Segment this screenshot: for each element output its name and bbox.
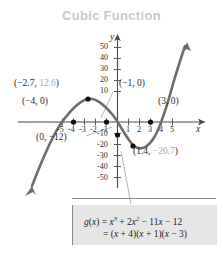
y-tick-40: 40: [100, 54, 108, 62]
x-tick-2: 2: [137, 126, 141, 134]
x-axis: [18, 119, 205, 126]
y-tick-neg50: -50: [97, 174, 108, 182]
exponent-3: 3: [114, 215, 117, 222]
y-tick-20: 20: [100, 76, 108, 84]
point-root-mid: [104, 119, 109, 124]
label-root-mid: (−1, 0): [119, 79, 145, 89]
cubic-function-figure: Cubic Function: [0, 0, 223, 253]
equation-box: g(x) = x3 + 2x2 − 11x − 12 = (x + 4)(x +…: [72, 205, 217, 245]
x-tick-4: 4: [159, 126, 163, 134]
point-root-left: [71, 119, 76, 124]
x-tick-neg2: -2: [90, 126, 97, 134]
label-local-min-main: (1.4,: [133, 146, 153, 156]
point-local-max: [85, 96, 90, 101]
y-axis-label: y: [110, 33, 114, 43]
x-tick-neg3: -3: [79, 126, 86, 134]
x-tick-3: 3: [148, 126, 152, 134]
y-tick-10: 10: [100, 87, 108, 95]
y-tick-neg30: -30: [97, 152, 108, 160]
point-root-right: [148, 119, 153, 124]
cubic-curve: [25, 42, 191, 196]
label-local-min: (1.4, −20.7): [133, 147, 178, 157]
label-local-min-value: −20.7: [153, 146, 175, 156]
x-tick-1: 1: [126, 126, 130, 134]
callout-top-rule: [72, 198, 216, 199]
label-root-right: (3, 0): [158, 97, 179, 107]
x-tick-neg4: -4: [68, 126, 75, 134]
point-y-intercept: [115, 132, 120, 137]
equation-line-1: g(x) = x3 + 2x2 − 11x − 12: [84, 216, 182, 228]
equation-line-2: = (x + 4)(x + 1)(x − 3): [103, 230, 187, 240]
exponent-2: 2: [136, 215, 139, 222]
label-local-min-close: ): [175, 146, 178, 156]
y-tick-neg40: -40: [97, 163, 108, 171]
label-root-left: (−4, 0): [22, 97, 48, 107]
label-local-max: (−2.7, 12.6): [14, 79, 59, 89]
label-local-max-value: 12.6: [39, 78, 56, 88]
label-local-max-close: ): [56, 78, 59, 88]
x-tick-neg1: -1: [101, 126, 108, 134]
y-tick-neg20: -20: [97, 141, 108, 149]
y-axis: [114, 34, 121, 188]
label-local-max-main: (−2.7,: [14, 78, 39, 88]
x-axis-label: x: [196, 125, 200, 135]
y-tick-50: 50: [100, 43, 108, 51]
y-tick-30: 30: [100, 65, 108, 73]
x-tick-5: 5: [170, 126, 174, 134]
label-y-intercept: (0, −12): [36, 133, 67, 143]
